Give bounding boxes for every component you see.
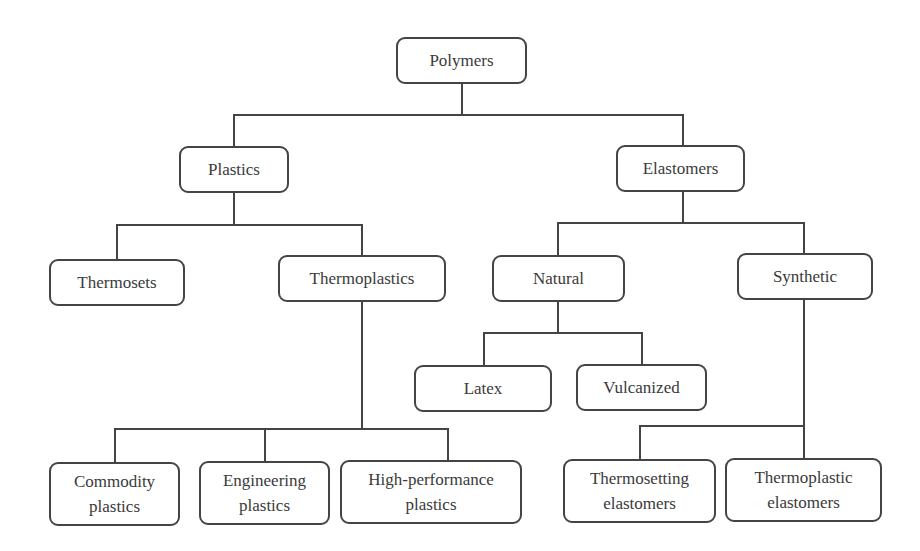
node-label: Plastics (208, 158, 260, 182)
node-plastics: Plastics (179, 146, 289, 193)
node-label: Thermoplastics (310, 267, 415, 291)
node-label-line2: elastomers (767, 490, 840, 515)
node-label-line1: Commodity (74, 469, 155, 494)
node-label-line1: Engineering (223, 468, 306, 493)
node-label: Elastomers (643, 157, 719, 181)
node-natural: Natural (492, 255, 625, 302)
node-label-line1: Thermosetting (590, 466, 689, 491)
node-vulcanized: Vulcanized (576, 364, 707, 411)
node-engineering-plastics: Engineering plastics (199, 461, 330, 525)
node-polymers: Polymers (396, 37, 527, 84)
node-thermosetting-elastomers: Thermosetting elastomers (563, 459, 716, 523)
node-label-line1: Thermoplastic (754, 465, 852, 490)
node-label-line2: plastics (89, 494, 140, 519)
node-thermoplastic-elastomers: Thermoplastic elastomers (725, 458, 882, 522)
node-label-line1: High-performance (368, 467, 494, 492)
node-elastomers: Elastomers (616, 145, 745, 192)
node-label: Thermosets (77, 271, 156, 295)
node-label: Latex (464, 377, 503, 401)
node-label: Polymers (429, 49, 493, 73)
node-label-line2: elastomers (603, 491, 676, 516)
node-high-performance-plastics: High-performance plastics (340, 460, 522, 524)
polymer-classification-diagram: Polymers Plastics Elastomers Thermosets … (0, 0, 920, 551)
node-commodity-plastics: Commodity plastics (49, 462, 180, 526)
node-label-line2: plastics (406, 492, 457, 517)
node-latex: Latex (414, 365, 552, 412)
node-synthetic: Synthetic (737, 253, 873, 300)
node-label-line2: plastics (239, 493, 290, 518)
node-label: Synthetic (773, 265, 837, 289)
node-label: Vulcanized (603, 376, 679, 400)
node-thermoplastics: Thermoplastics (278, 255, 446, 302)
node-thermosets: Thermosets (49, 259, 185, 306)
node-label: Natural (533, 267, 584, 291)
